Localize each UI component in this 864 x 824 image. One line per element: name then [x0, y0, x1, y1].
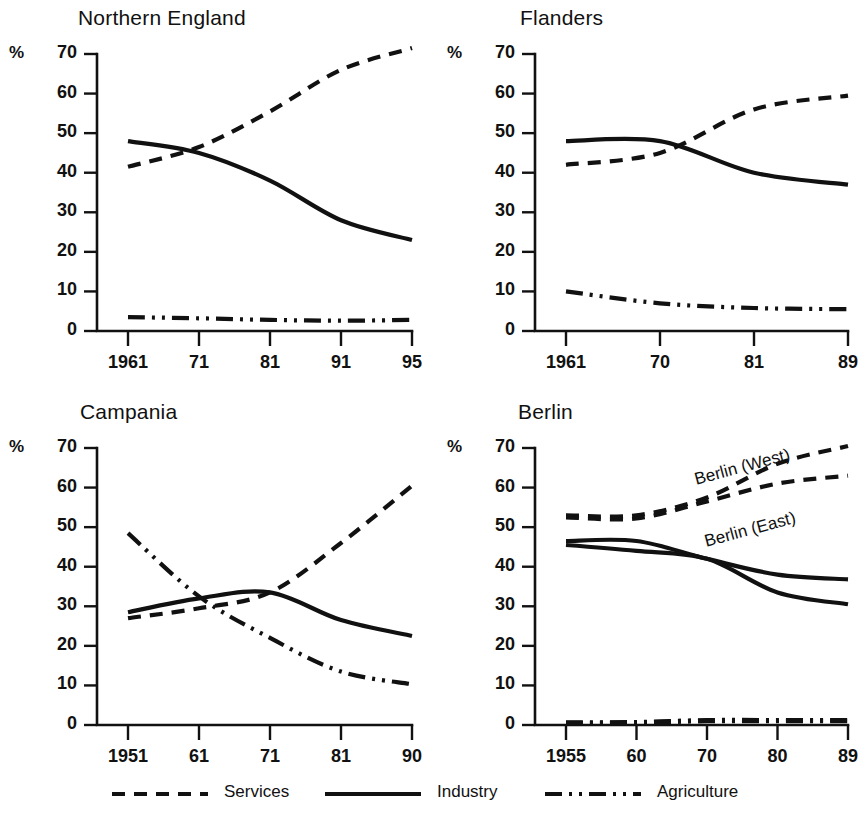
- y-axis-unit-label-1: %: [447, 43, 462, 63]
- legend-agriculture: Agriculture: [545, 778, 791, 808]
- x-tick-label-2-0: 1951: [88, 746, 168, 767]
- y-axis-unit-label-0: %: [9, 43, 24, 63]
- x-tick-label-1-3: 89: [808, 352, 864, 373]
- series-line-2-2: [128, 533, 412, 684]
- series-line-3-3: [566, 545, 848, 604]
- multi-panel-line-chart-figure: Northern England010203040506070%19617181…: [0, 0, 864, 824]
- x-tick-label-1-1: 70: [620, 352, 700, 373]
- axis-spine-2: [97, 448, 412, 725]
- panel-title-1: Flanders: [520, 6, 603, 30]
- x-tick-label-0-3: 91: [301, 352, 381, 373]
- y-tick-label-3-1: 10: [481, 673, 515, 694]
- chart-legend: ServicesIndustryAgriculture: [0, 778, 864, 818]
- y-tick-label-2-1: 10: [43, 673, 77, 694]
- legend-agriculture-label: Agriculture: [657, 782, 738, 802]
- x-tick-label-3-1: 60: [597, 746, 677, 767]
- axis-spine-1: [535, 54, 848, 331]
- legend-industry: Industry: [325, 778, 571, 808]
- legend-industry-label: Industry: [437, 782, 497, 802]
- y-tick-label-0-4: 40: [43, 161, 77, 182]
- x-tick-label-2-4: 90: [372, 746, 452, 767]
- x-tick-label-0-1: 71: [159, 352, 239, 373]
- x-tick-label-3-4: 89: [808, 746, 864, 767]
- x-tick-label-2-1: 61: [159, 746, 239, 767]
- x-tick-label-3-2: 70: [667, 746, 747, 767]
- y-tick-label-1-3: 30: [481, 200, 515, 221]
- legend-industry-swatch: [325, 789, 421, 799]
- axis-spine-0: [97, 54, 412, 331]
- y-tick-label-0-5: 50: [43, 121, 77, 142]
- y-tick-label-1-7: 70: [481, 42, 515, 63]
- y-tick-label-0-3: 30: [43, 200, 77, 221]
- y-tick-label-0-1: 10: [43, 279, 77, 300]
- y-tick-label-1-4: 40: [481, 161, 515, 182]
- panel-title-0: Northern England: [78, 6, 246, 30]
- y-axis-unit-label-2: %: [9, 437, 24, 457]
- series-line-2-1: [128, 591, 412, 636]
- series-line-2-0: [128, 486, 412, 619]
- series-line-0-2: [128, 317, 412, 321]
- y-tick-label-3-3: 30: [481, 594, 515, 615]
- y-tick-label-0-7: 70: [43, 42, 77, 63]
- series-line-1-2: [566, 291, 848, 309]
- x-tick-label-0-4: 95: [372, 352, 452, 373]
- y-tick-label-2-7: 70: [43, 436, 77, 457]
- y-tick-label-0-2: 20: [43, 240, 77, 261]
- y-tick-label-3-6: 60: [481, 476, 515, 497]
- x-tick-label-2-3: 81: [301, 746, 381, 767]
- y-tick-label-1-5: 50: [481, 121, 515, 142]
- axis-spine-3: [535, 448, 848, 725]
- y-tick-label-2-6: 60: [43, 476, 77, 497]
- y-tick-label-2-5: 50: [43, 515, 77, 536]
- y-tick-label-2-3: 30: [43, 594, 77, 615]
- legend-services-swatch: [112, 789, 208, 799]
- panel-title-2: Campania: [80, 400, 177, 424]
- legend-services-label: Services: [224, 782, 289, 802]
- y-tick-label-2-0: 0: [43, 713, 77, 734]
- x-tick-label-0-0: 1961: [88, 352, 168, 373]
- y-tick-label-1-6: 60: [481, 82, 515, 103]
- y-tick-label-2-2: 20: [43, 634, 77, 655]
- y-tick-label-2-4: 40: [43, 555, 77, 576]
- x-tick-label-2-2: 71: [230, 746, 310, 767]
- y-tick-label-3-5: 50: [481, 515, 515, 536]
- y-tick-label-0-0: 0: [43, 319, 77, 340]
- y-tick-label-0-6: 60: [43, 82, 77, 103]
- panel-title-3: Berlin: [518, 400, 573, 424]
- series-line-3-5: [566, 721, 848, 723]
- y-tick-label-3-2: 20: [481, 634, 515, 655]
- x-tick-label-1-2: 81: [714, 352, 794, 373]
- y-axis-unit-label-3: %: [447, 437, 462, 457]
- y-tick-label-3-4: 40: [481, 555, 515, 576]
- y-tick-label-3-7: 70: [481, 436, 515, 457]
- y-tick-label-1-2: 20: [481, 240, 515, 261]
- x-tick-label-3-0: 1955: [526, 746, 606, 767]
- legend-agriculture-swatch: [545, 789, 641, 799]
- x-tick-label-3-3: 80: [738, 746, 818, 767]
- x-tick-label-1-0: 1961: [526, 352, 606, 373]
- x-tick-label-0-2: 81: [230, 352, 310, 373]
- y-tick-label-1-0: 0: [481, 319, 515, 340]
- series-line-1-1: [566, 139, 848, 185]
- legend-services: Services: [112, 778, 358, 808]
- y-tick-label-3-0: 0: [481, 713, 515, 734]
- y-tick-label-1-1: 10: [481, 279, 515, 300]
